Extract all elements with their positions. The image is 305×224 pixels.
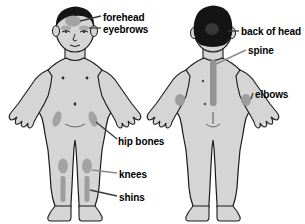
spine-highlight (210, 60, 217, 106)
front-right-pupil (83, 31, 85, 33)
label-knees: knees (119, 169, 147, 180)
back-of-head-highlight (205, 23, 219, 35)
anatomy-diagram: forehead eyebrows hip bones knees shins … (0, 0, 305, 224)
label-back-of-head: back of head (241, 26, 301, 37)
front-right-eyebrow-highlight (79, 25, 89, 30)
front-forehead-highlight (65, 16, 81, 27)
back-right-elbow-highlight (241, 94, 251, 106)
front-right-nipple (86, 77, 89, 80)
back-right-scapula-dot (204, 103, 206, 105)
back-left-scapula-dot (202, 80, 204, 82)
label-spine: spine (248, 45, 274, 56)
front-left-shin-highlight (61, 176, 66, 202)
front-left-foot (48, 206, 71, 221)
front-left-knee-highlight (58, 159, 68, 174)
back-right-foot (217, 206, 240, 221)
front-left-nipple (62, 77, 65, 80)
back-left-elbow-highlight (175, 94, 185, 106)
label-eyebrows: eyebrows (103, 24, 148, 35)
front-right-foot (79, 206, 102, 221)
label-shins: shins (119, 192, 145, 203)
front-right-knee-highlight (82, 159, 92, 174)
label-elbows: elbows (255, 89, 288, 100)
front-navel (74, 102, 77, 106)
front-view-figure (9, 7, 141, 222)
label-forehead: forehead (103, 12, 144, 23)
front-left-pupil (65, 31, 67, 33)
back-left-foot (186, 206, 209, 221)
front-right-shin-highlight (85, 176, 90, 202)
front-left-eyebrow-highlight (61, 25, 71, 30)
label-hip-bones: hip bones (118, 136, 164, 147)
back-view-figure (147, 6, 279, 222)
